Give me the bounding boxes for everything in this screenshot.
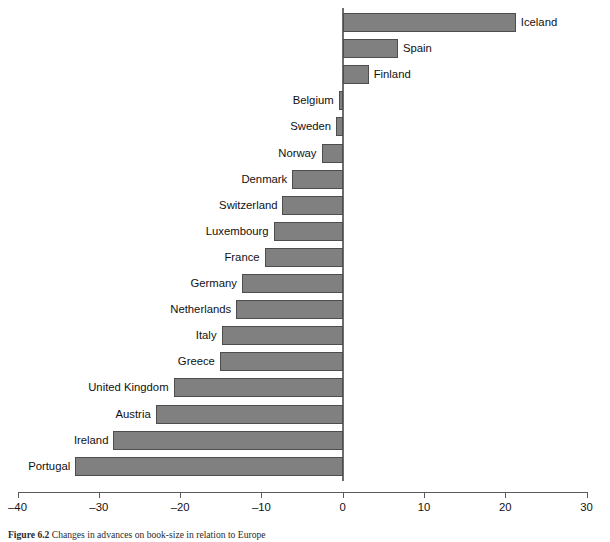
bar[interactable] (75, 457, 342, 476)
bar-category-label: Switzerland (219, 197, 277, 214)
bar-row: Finland (0, 65, 610, 84)
bar[interactable] (322, 144, 343, 163)
bar-row: Germany (0, 274, 610, 293)
bar[interactable] (222, 326, 343, 345)
bar[interactable] (236, 300, 342, 319)
bar-category-label: Austria (116, 406, 151, 423)
bar[interactable] (274, 222, 343, 241)
bar-row: United Kingdom (0, 378, 610, 397)
bar-row: Belgium (0, 91, 610, 110)
x-axis-tick-label: 10 (418, 500, 431, 514)
bar-row: Austria (0, 405, 610, 424)
bar[interactable] (220, 352, 343, 371)
bar[interactable] (292, 170, 342, 189)
bar-category-label: France (224, 249, 259, 266)
x-axis-tick-label: –20 (171, 500, 190, 514)
bar-category-label: Netherlands (170, 301, 231, 318)
bar-row: France (0, 248, 610, 267)
figure-caption-number: Figure 6.2 (8, 529, 49, 540)
bar-category-label: Portugal (28, 458, 70, 475)
bar[interactable] (336, 117, 343, 136)
bar-row: Spain (0, 39, 610, 58)
bar-category-label: Belgium (293, 92, 334, 109)
bar-row: Denmark (0, 170, 610, 189)
x-axis-tick (18, 492, 19, 498)
bar[interactable] (113, 431, 342, 450)
x-axis-tick (587, 492, 588, 498)
bar-category-label: Greece (178, 353, 215, 370)
bar-category-label: Denmark (241, 171, 287, 188)
bar-category-label: Germany (190, 275, 236, 292)
bar[interactable] (242, 274, 343, 293)
bar-category-label: Luxembourg (206, 223, 269, 240)
bar-row: Norway (0, 144, 610, 163)
x-axis-tick (505, 492, 506, 498)
figure-caption-text: Changes in advances on book-size in rela… (52, 529, 266, 540)
bar-row: Greece (0, 352, 610, 371)
bar-category-label: Ireland (74, 432, 109, 449)
x-axis-tick (261, 492, 262, 498)
bar-category-label: Sweden (290, 118, 331, 135)
bar-category-label: Finland (374, 66, 411, 83)
x-axis-line (18, 492, 587, 493)
bar-category-label: Spain (403, 40, 432, 57)
chart-plot-area: IcelandSpainFinlandBelgiumSwedenNorwayDe… (0, 0, 610, 500)
x-axis-tick-label: –40 (8, 500, 27, 514)
x-axis: –40–30–20–100102030 (0, 492, 610, 522)
figure-caption: Figure 6.2 Changes in advances on book-s… (8, 529, 568, 541)
bar[interactable] (265, 248, 343, 267)
bar[interactable] (343, 13, 516, 32)
bar-row: Ireland (0, 431, 610, 450)
x-axis-tick (424, 492, 425, 498)
x-axis-tick-label: 0 (339, 500, 345, 514)
bar[interactable] (343, 65, 369, 84)
bar[interactable] (339, 91, 343, 110)
figure-container: IcelandSpainFinlandBelgiumSwedenNorwayDe… (0, 0, 610, 542)
bar[interactable] (156, 405, 343, 424)
bar[interactable] (343, 39, 398, 58)
x-axis-tick-label: –30 (89, 500, 108, 514)
bar[interactable] (282, 196, 342, 215)
bar-row: Switzerland (0, 196, 610, 215)
x-axis-tick-label: –10 (252, 500, 271, 514)
x-axis-tick (99, 492, 100, 498)
bar-row: Luxembourg (0, 222, 610, 241)
x-axis-tick (180, 492, 181, 498)
bar-row: Italy (0, 326, 610, 345)
bar-row: Iceland (0, 13, 610, 32)
x-axis-tick (343, 492, 344, 498)
bar-category-label: Norway (278, 145, 316, 162)
x-axis-tick-label: 20 (499, 500, 512, 514)
bar-row: Sweden (0, 117, 610, 136)
bar-category-label: Iceland (521, 14, 557, 31)
bar-row: Portugal (0, 457, 610, 476)
x-axis-tick-label: 30 (580, 500, 593, 514)
bar-category-label: United Kingdom (88, 379, 168, 396)
bar[interactable] (174, 378, 343, 397)
bar-row: Netherlands (0, 300, 610, 319)
bar-category-label: Italy (196, 327, 217, 344)
